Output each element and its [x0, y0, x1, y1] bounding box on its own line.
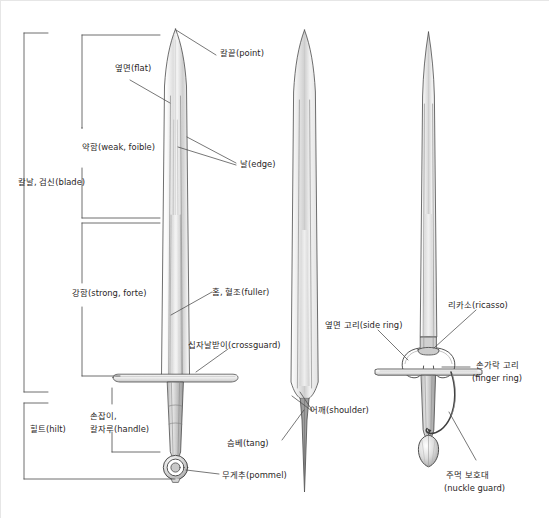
label-point: 칼끝(point): [220, 48, 264, 59]
bracket-foible: [82, 35, 160, 128]
label-shoulder: 어깨(shoulder): [310, 405, 369, 416]
label-weak-foible: 약함(weak, foible): [82, 142, 155, 153]
label-edge: 날(edge): [240, 159, 275, 170]
label-ricasso: 리카소(ricasso): [448, 300, 508, 311]
label-pommel: 무게추(pommel): [222, 470, 287, 481]
label-blade: 칼날, 검신(blade): [18, 177, 85, 188]
bracket-foible-lower: [82, 168, 160, 218]
sword-anatomy-diagram: 칼끝(point) 옆면(flat) 약함(weak, foible) 날(ed…: [0, 0, 549, 518]
diagram-artwork: [0, 0, 549, 518]
label-finger-ring-line1: 손가락 고리: [476, 360, 519, 371]
label-flat: 옆면(flat): [115, 63, 151, 74]
label-tang: 슴베(tang): [227, 438, 269, 449]
label-nuckle-guard-line2: (nuckle guard): [444, 483, 505, 494]
bracket-handle: [112, 388, 160, 452]
sword-left-arming: [113, 29, 238, 482]
bracket-forte: [82, 223, 160, 376]
label-nuckle-guard-line1: 주먹 보호대: [446, 470, 489, 481]
bracket-blade: [24, 33, 48, 392]
label-handle-line1: 손잡이,: [90, 411, 117, 422]
label-handle-line2: 칼자루(handle): [90, 424, 149, 435]
label-crossguard: 십자날받이(crossguard): [188, 340, 281, 351]
label-side-ring: 옆면 고리(side ring): [325, 320, 402, 331]
sword-right-side-sword: [375, 32, 482, 467]
label-finger-ring-line2: (finger ring): [472, 373, 522, 384]
label-fuller: 홈, 혈조(fuller): [212, 287, 269, 298]
label-hilt: 힐트(hilt): [30, 424, 66, 435]
label-strong-forte: 강함(strong, forte): [72, 288, 146, 299]
